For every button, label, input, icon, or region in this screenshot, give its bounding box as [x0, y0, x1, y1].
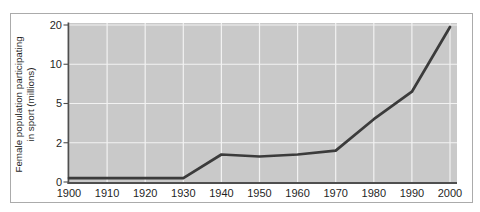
y-tick-label: 5 — [56, 97, 62, 109]
y-tick-label: 10 — [50, 58, 62, 70]
x-tick-label: 1920 — [133, 187, 157, 199]
y-axis-label-line2: in sport (millions) — [25, 67, 36, 141]
x-tick-label: 1910 — [95, 187, 119, 199]
x-tick-label: 1900 — [57, 187, 81, 199]
line-chart: 0251020190019101920193019401950196019701… — [0, 0, 480, 212]
x-tick-label: 1980 — [362, 187, 386, 199]
x-tick-label: 1940 — [209, 187, 233, 199]
y-tick-label: 2 — [56, 137, 62, 149]
y-tick-label: 20 — [50, 19, 62, 31]
x-tick-label: 1950 — [247, 187, 271, 199]
figure: 0251020190019101920193019401950196019701… — [0, 0, 480, 212]
x-tick-label: 2000 — [438, 187, 462, 199]
x-tick-label: 1970 — [323, 187, 347, 199]
y-axis-label-line1: Female population participating — [13, 36, 24, 172]
x-tick-label: 1930 — [171, 187, 195, 199]
x-axis-ticks: 1900191019201930194019501960197019801990… — [57, 187, 462, 199]
y-axis-ticks: 0251020 — [50, 19, 69, 188]
x-tick-label: 1990 — [400, 187, 424, 199]
x-tick-label: 1960 — [285, 187, 309, 199]
y-axis-label: Female population participatingin sport … — [13, 36, 36, 172]
